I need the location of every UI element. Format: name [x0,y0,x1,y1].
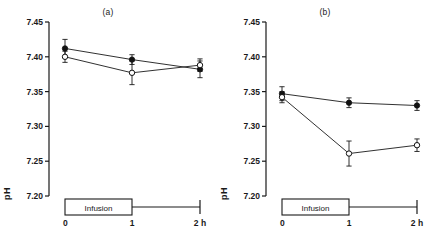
panel-a-plot: 7.457.407.357.307.257.20Infusion012 h [0,0,216,232]
panel-a: (a) pH 7.457.407.357.307.257.20Infusion0… [0,0,216,232]
y-axis-tick-label: 7.25 [26,156,43,166]
y-axis-tick-label: 7.35 [243,87,260,97]
infusion-label: Infusion [84,204,112,213]
y-axis-tick-label: 7.30 [26,121,43,131]
y-axis-tick-label: 7.40 [26,52,43,62]
panel-b: (b) pH 7.457.407.357.307.257.20Infusion0… [217,0,433,232]
figure-container: (a) pH 7.457.407.357.307.257.20Infusion0… [0,0,433,232]
y-axis-tick-label: 7.25 [243,156,260,166]
data-point-open [129,70,134,75]
data-point-filled [62,46,67,51]
y-axis-tick-label: 7.45 [243,17,260,27]
data-point-filled [414,103,419,108]
data-point-filled [346,100,351,105]
data-point-open [62,54,67,59]
x-axis-tick-label: 1 [130,218,135,228]
data-point-open [346,151,351,156]
y-axis-tick-label: 7.35 [26,87,43,97]
data-point-open [414,142,419,147]
data-point-open [197,62,202,67]
infusion-label: Infusion [301,204,329,213]
x-axis-tick-label: 1 [347,218,352,228]
y-axis-tick-label: 7.20 [243,191,260,201]
data-point-open [279,94,284,99]
y-axis-tick-label: 7.40 [243,52,260,62]
y-axis-tick-label: 7.30 [243,121,260,131]
x-axis-tick-label: 0 [63,218,68,228]
x-axis-tick-label: 2 h [411,218,423,228]
y-axis-tick-label: 7.45 [26,17,43,27]
x-axis-tick-label: 2 h [194,218,206,228]
x-axis-tick-label: 0 [280,218,285,228]
y-axis-tick-label: 7.20 [26,191,43,201]
panel-b-plot: 7.457.407.357.307.257.20Infusion012 h [217,0,433,232]
